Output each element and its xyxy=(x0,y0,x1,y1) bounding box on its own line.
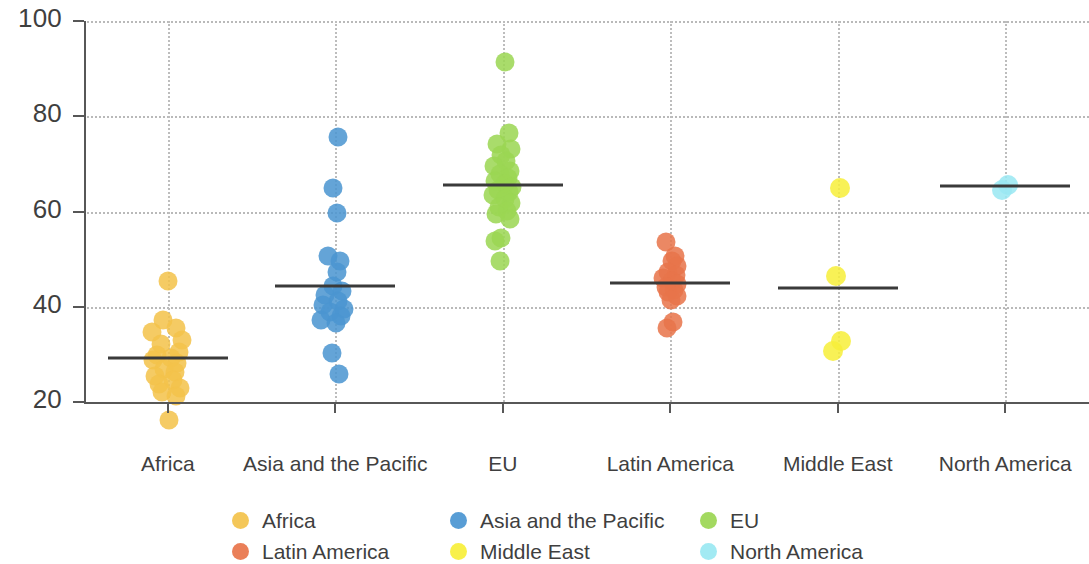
legend-label: Middle East xyxy=(480,540,590,564)
y-tick-100 xyxy=(73,20,84,22)
legend-item-middle-east[interactable]: Middle East xyxy=(450,540,700,564)
legend-swatch-icon xyxy=(232,543,249,560)
legend-label: Latin America xyxy=(262,540,389,564)
legend-label: North America xyxy=(730,540,863,564)
gridline-y-100 xyxy=(84,21,1089,23)
data-point xyxy=(657,318,676,337)
mean-line-africa xyxy=(108,356,228,359)
legend-swatch-icon xyxy=(450,512,467,529)
data-point xyxy=(500,210,519,229)
legend: AfricaAsia and the PacificEULatin Americ… xyxy=(232,505,932,564)
y-axis-label-20: 20 xyxy=(0,384,62,415)
gridline-y-80 xyxy=(84,116,1089,118)
x-axis-label-middle-east: Middle East xyxy=(783,452,893,476)
y-axis-label-40: 40 xyxy=(0,289,62,320)
data-point xyxy=(327,313,346,332)
x-tick-africa xyxy=(167,402,169,413)
legend-swatch-icon xyxy=(450,543,467,560)
x-tick-latin-america xyxy=(669,402,671,413)
data-point xyxy=(159,411,178,430)
data-point xyxy=(322,344,341,363)
legend-label: EU xyxy=(730,509,759,533)
legend-swatch-icon xyxy=(700,512,717,529)
mean-line-eu xyxy=(443,183,563,186)
x-tick-eu xyxy=(502,402,504,413)
legend-label: Asia and the Pacific xyxy=(480,509,664,533)
gridline-y-60 xyxy=(84,212,1089,214)
data-point xyxy=(662,291,681,310)
x-tick-asia-and-the-pacific xyxy=(334,402,336,413)
x-axis-line xyxy=(84,402,1089,404)
data-point xyxy=(485,232,504,251)
y-axis-label-100: 100 xyxy=(0,3,62,34)
x-axis-label-north-america: North America xyxy=(939,452,1072,476)
x-tick-middle-east xyxy=(837,402,839,413)
vertical-gridline-latin-america xyxy=(670,21,672,402)
data-point xyxy=(328,204,347,223)
data-point xyxy=(491,252,510,271)
gridline-y-40 xyxy=(84,307,1089,309)
data-point xyxy=(992,180,1012,200)
legend-item-asia-and-the-pacific[interactable]: Asia and the Pacific xyxy=(450,509,700,533)
data-point xyxy=(329,364,348,383)
x-tick-north-america xyxy=(1004,402,1006,413)
legend-item-africa[interactable]: Africa xyxy=(232,509,450,533)
y-tick-60 xyxy=(73,211,84,213)
mean-line-asia-and-the-pacific xyxy=(275,285,395,288)
data-point xyxy=(830,178,850,198)
x-axis-label-asia-and-the-pacific: Asia and the Pacific xyxy=(243,452,427,476)
legend-swatch-icon xyxy=(700,543,717,560)
x-axis-label-latin-america: Latin America xyxy=(607,452,734,476)
x-axis-label-eu: EU xyxy=(488,452,517,476)
data-point xyxy=(826,266,846,286)
plot-area xyxy=(84,21,1089,402)
mean-line-north-america xyxy=(940,185,1070,188)
data-point xyxy=(324,179,343,198)
legend-swatch-icon xyxy=(232,512,249,529)
y-tick-40 xyxy=(73,306,84,308)
data-point xyxy=(158,272,177,291)
y-tick-80 xyxy=(73,115,84,117)
data-point xyxy=(823,341,843,361)
y-axis-label-80: 80 xyxy=(0,98,62,129)
vertical-gridline-north-america xyxy=(1005,21,1007,402)
chart-canvas: 20406080100 AfricaAsia and the PacificEU… xyxy=(0,0,1089,564)
legend-item-north-america[interactable]: North America xyxy=(700,540,930,564)
data-point xyxy=(328,128,347,147)
legend-item-latin-america[interactable]: Latin America xyxy=(232,540,450,564)
mean-line-latin-america xyxy=(610,282,730,285)
legend-label: Africa xyxy=(262,509,316,533)
data-point xyxy=(495,53,514,72)
x-axis-label-africa: Africa xyxy=(141,452,195,476)
y-axis-line xyxy=(84,21,86,402)
y-tick-20 xyxy=(73,401,84,403)
mean-line-middle-east xyxy=(778,286,898,289)
legend-item-eu[interactable]: EU xyxy=(700,509,930,533)
y-axis-label-60: 60 xyxy=(0,194,62,225)
